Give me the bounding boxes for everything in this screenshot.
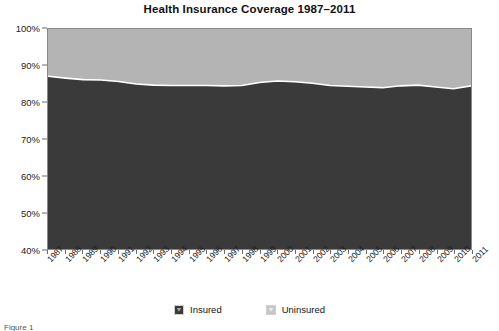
legend-label-uninsured: Uninsured [282, 304, 325, 315]
legend-swatch-uninsured [266, 305, 276, 315]
figure-caption: Figure 1 [4, 322, 33, 331]
chart-title: Health Insurance Coverage 1987–2011 [0, 3, 499, 15]
chart-figure: Health Insurance Coverage 1987–2011 100%… [0, 0, 499, 331]
y-tick-label-40: 40% [21, 245, 40, 256]
legend-label-insured: Insured [190, 304, 222, 315]
y-tick-label-50: 50% [21, 208, 40, 219]
legend-item-uninsured[interactable]: Uninsured [266, 304, 325, 315]
area-insured [48, 76, 471, 249]
legend-item-insured[interactable]: Insured [174, 304, 222, 315]
plot-area [47, 28, 472, 250]
y-tick-label-80: 80% [21, 97, 40, 108]
x-axis: 1987198819891990199119921993199419951996… [47, 250, 472, 310]
area-uninsured [48, 29, 471, 89]
y-tick-label-70: 70% [21, 134, 40, 145]
stacked-area-svg [48, 29, 471, 249]
x-tick-label-2011: 2011 [470, 244, 490, 264]
chart-legend: Insured Uninsured [0, 304, 499, 315]
y-axis: 100%90%80%70%60%50%40% [0, 28, 47, 250]
y-tick-label-90: 90% [21, 60, 40, 71]
legend-swatch-insured [174, 305, 184, 315]
area-series-group [48, 29, 471, 249]
y-tick-label-60: 60% [21, 171, 40, 182]
y-tick-label-100: 100% [16, 23, 40, 34]
